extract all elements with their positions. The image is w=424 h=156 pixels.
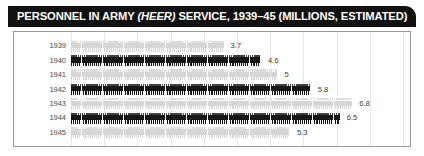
chart-row: 19415 — [14, 68, 410, 82]
soldier-pictogram-icon — [338, 113, 340, 124]
chart-row: 19446.5 — [14, 111, 410, 125]
value-label: 6.5 — [347, 114, 358, 122]
title-italic-term: (HEER) — [137, 10, 175, 22]
bar — [71, 41, 225, 52]
chart-row: 19436.8 — [14, 97, 410, 111]
value-label: 5.3 — [297, 129, 308, 137]
title-suffix: SERVICE, 1939–45 (MILLIONS, ESTIMATED) — [175, 10, 407, 22]
chart-figure: PERSONNEL IN ARMY (HEER) SERVICE, 1939–4… — [0, 0, 424, 156]
value-label: 5.8 — [318, 86, 329, 94]
soldier-pictogram-icon — [287, 127, 289, 138]
chart-plot-area: 19393.719404.61941519425.819436.819446.5… — [14, 39, 410, 146]
year-label: 1942 — [14, 86, 66, 94]
year-label: 1943 — [14, 100, 66, 108]
soldier-pictogram-icon — [350, 98, 352, 109]
bar-wrapper: 5.8 — [71, 82, 328, 96]
value-label: 3.7 — [231, 42, 242, 50]
year-label: 1945 — [14, 129, 66, 137]
bar-wrapper: 3.7 — [71, 39, 241, 53]
bar — [71, 55, 262, 66]
bar-wrapper: 6.8 — [71, 97, 370, 111]
bar-wrapper: 4.6 — [71, 53, 278, 67]
chart-row: 19393.7 — [14, 39, 410, 53]
year-label: 1944 — [14, 114, 66, 122]
year-label: 1940 — [14, 57, 66, 65]
year-label: 1939 — [14, 42, 66, 50]
bar — [71, 98, 353, 109]
bar — [71, 84, 312, 95]
soldier-pictogram-icon — [275, 69, 277, 80]
value-label: 4.6 — [268, 57, 279, 65]
year-label: 1941 — [14, 71, 66, 79]
value-label: 5 — [285, 71, 289, 79]
chart-row: 19455.3 — [14, 125, 410, 139]
title-prefix: PERSONNEL IN ARMY — [17, 10, 137, 22]
soldier-pictogram-icon — [308, 84, 310, 95]
bar-wrapper: 6.5 — [71, 111, 357, 125]
soldier-pictogram-icon — [258, 55, 260, 66]
chart-row: 19425.8 — [14, 82, 410, 96]
bar — [71, 113, 341, 124]
chart-title-bar: PERSONNEL IN ARMY (HEER) SERVICE, 1939–4… — [8, 6, 416, 27]
bar-wrapper: 5.3 — [71, 125, 308, 139]
chart-row: 19404.6 — [14, 53, 410, 67]
bar-wrapper: 5 — [71, 68, 289, 82]
bar — [71, 127, 291, 138]
chart-panel: 19393.719404.61941519425.819436.819446.5… — [13, 31, 411, 147]
value-label: 6.8 — [359, 100, 370, 108]
soldier-pictogram-icon — [222, 41, 224, 52]
page-title: PERSONNEL IN ARMY (HEER) SERVICE, 1939–4… — [17, 11, 407, 22]
bar — [71, 69, 279, 80]
